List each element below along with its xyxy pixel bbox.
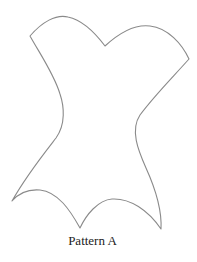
pattern-a-diagram	[0, 0, 197, 262]
figure-caption: Pattern A	[0, 233, 197, 249]
corset-outline	[12, 16, 189, 229]
